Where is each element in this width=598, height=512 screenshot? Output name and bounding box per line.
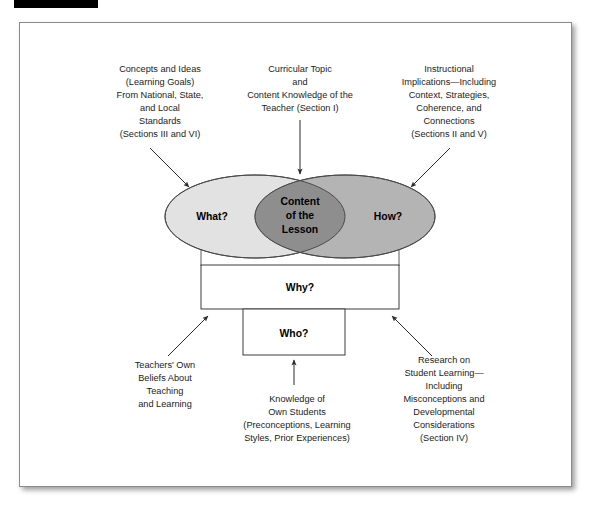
caption-center-curricular: Curricular Topic and Content Knowledge o… (247, 64, 353, 113)
who-box-label: Who? (280, 328, 309, 339)
caption-right-line-4: Connections (423, 116, 474, 126)
bottom-right-line-6: (Section IV) (420, 433, 468, 443)
caption-center-line-1: and (292, 77, 307, 87)
caption-right-line-2: Context, Strategies, (409, 90, 490, 100)
arrow-bottom-left-to-why (168, 316, 208, 356)
caption-bottom-left-beliefs: Teachers' Own Beliefs About Teaching and… (135, 360, 195, 409)
bottom-right-line-2: Including (426, 381, 463, 391)
caption-left-concepts: Concepts and Ideas (Learning Goals) From… (117, 64, 204, 139)
bottom-center-line-0: Knowledge of (269, 394, 325, 404)
caption-right-line-5: (Sections II and V) (411, 129, 487, 139)
caption-center-line-0: Curricular Topic (268, 64, 332, 74)
bottom-left-line-1: Beliefs About (138, 373, 192, 383)
arrow-right-to-ellipse (411, 148, 450, 187)
bottom-right-line-0: Research on (418, 355, 470, 365)
caption-right-line-3: Coherence, and (416, 103, 481, 113)
venn-label-what: What? (196, 211, 228, 222)
caption-left-line-0: Concepts and Ideas (119, 64, 201, 74)
bottom-left-line-0: Teachers' Own (135, 360, 195, 370)
venn-diagram-group: What? How? Content of the Lesson (165, 175, 435, 258)
venn-label-content-line-2: Lesson (282, 224, 318, 235)
caption-right-line-1: Implications—Including (402, 77, 496, 87)
caption-left-line-3: and Local (140, 103, 180, 113)
caption-left-line-1: (Learning Goals) (126, 77, 194, 87)
arrow-left-to-ellipse (150, 148, 189, 187)
bottom-left-line-2: Teaching (147, 386, 184, 396)
caption-bottom-center-students: Knowledge of Own Students (Preconception… (243, 394, 350, 443)
venn-label-how: How? (374, 211, 402, 222)
arrow-bottom-right-to-why (392, 316, 432, 356)
venn-label-content-line-0: Content (280, 196, 320, 207)
bottom-right-line-3: Misconceptions and (403, 394, 484, 404)
bottom-right-line-5: Considerations (413, 420, 475, 430)
caption-left-line-5: (Sections III and VI) (120, 129, 201, 139)
bottom-left-line-3: and Learning (138, 399, 192, 409)
venn-label-content-line-1: of the (286, 210, 315, 221)
bottom-center-line-3: Styles, Prior Experiences) (244, 433, 350, 443)
why-box-label: Why? (286, 282, 314, 293)
caption-right-line-0: Instructional (424, 64, 474, 74)
bottom-center-line-1: Own Students (268, 407, 326, 417)
caption-left-line-4: Standards (139, 116, 181, 126)
bottom-center-line-2: (Preconceptions, Learning (243, 420, 350, 430)
caption-center-line-3: Teacher (Section I) (261, 103, 338, 113)
lesson-framework-diagram: Concepts and Ideas (Learning Goals) From… (0, 0, 598, 512)
caption-left-line-2: From National, State, (117, 90, 204, 100)
caption-center-line-2: Content Knowledge of the (247, 90, 353, 100)
bottom-right-line-4: Developmental (413, 407, 474, 417)
bottom-right-line-1: Student Learning— (404, 368, 484, 378)
caption-right-instructional: Instructional Implications—Including Con… (402, 64, 496, 139)
caption-bottom-right-research: Research on Student Learning— Including … (403, 355, 484, 443)
